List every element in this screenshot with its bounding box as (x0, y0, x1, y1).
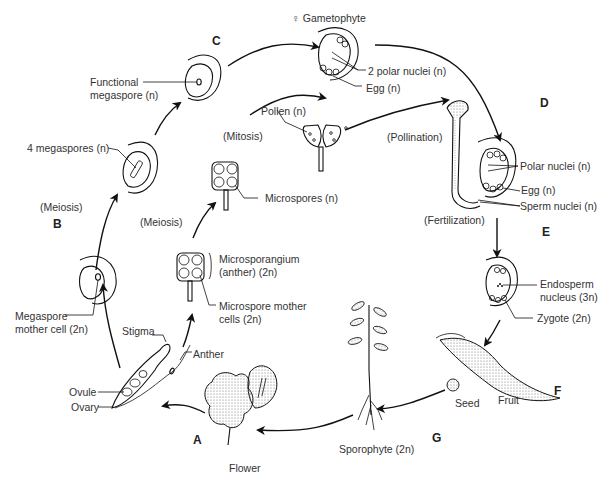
ovule-endosperm-zygote (486, 257, 537, 318)
pistil-and-stamen (98, 335, 192, 408)
label-zygote: Zygote (2n) (537, 312, 591, 325)
label-two-polar-nuclei: 2 polar nuclei (n) (368, 65, 446, 78)
stage-letter-c: C (212, 34, 221, 48)
stage-letter-e: E (542, 225, 550, 239)
fruit-pod (436, 334, 560, 401)
sporophyte-plant (347, 300, 388, 430)
flower-drawing (205, 366, 277, 445)
label-polar-nuclei: Polar nuclei (n) (520, 160, 591, 173)
ovule-four-megaspores (108, 142, 158, 193)
label-pollen: Pollen (n) (261, 105, 306, 118)
process-fertilization: (Fertilization) (424, 214, 485, 227)
label-endosperm-nucleus: Endosperm nucleus (3n) (540, 278, 598, 303)
process-mitosis: (Mitosis) (223, 130, 263, 143)
label-four-megaspores: 4 megaspores (n) (27, 142, 109, 155)
label-egg-right: Egg (n) (521, 184, 555, 197)
label-stigma: Stigma (122, 325, 155, 338)
label-seed: Seed (455, 397, 480, 410)
ovule-fertilization (478, 138, 520, 206)
label-microspores: Microspores (n) (265, 192, 338, 205)
pollen-tube (447, 101, 480, 209)
microsporangium (177, 253, 216, 305)
label-anther: Anther (193, 348, 224, 361)
process-meiosis-left: (Meiosis) (40, 201, 83, 214)
label-fruit: Fruit (498, 394, 519, 407)
process-pollination: (Pollination) (387, 131, 442, 144)
label-female-gametophyte: ♀ Gametophyte (292, 12, 366, 25)
stage-letter-f: F (554, 384, 561, 398)
stage-letter-b: B (53, 217, 62, 231)
stage-letter-d: D (540, 96, 549, 110)
label-functional-megaspore: Functional megaspore (n) (90, 76, 158, 101)
microspores-anther (212, 162, 258, 210)
pollen-anther (277, 110, 347, 171)
label-microsporangium: Microsporangium (anther) (2n) (219, 253, 300, 278)
label-sporophyte: Sporophyte (2n) (339, 443, 414, 456)
life-cycle-diagram: C B D E F G A (Meiosis) (Meiosis) (Mitos… (0, 0, 603, 479)
label-ovary: Ovary (71, 401, 99, 414)
process-meiosis-middle: (Meiosis) (140, 216, 183, 229)
label-sperm-nuclei: Sperm nuclei (n) (520, 200, 597, 213)
label-ovule: Ovule (69, 386, 96, 399)
label-microspore-mother-cells: Microspore mother cells (2n) (219, 300, 307, 325)
label-flower: Flower (229, 462, 261, 475)
stage-letter-a: A (193, 433, 202, 447)
ovule-megaspore-mother-cell (65, 256, 116, 315)
label-megaspore-mother-cell: Megaspore mother cell (2n) (15, 310, 88, 335)
label-egg-top: Egg (n) (366, 82, 400, 95)
stage-letter-g: G (432, 431, 441, 445)
cycle-arrows (96, 44, 500, 431)
female-gametophyte (318, 28, 366, 86)
seed-drawing (447, 379, 459, 391)
